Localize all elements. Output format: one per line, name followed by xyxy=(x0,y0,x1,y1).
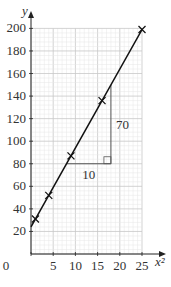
y-tick-label: 60 xyxy=(13,178,26,193)
x-axis-label: x² xyxy=(154,254,166,269)
chart: 051015202520406080100120140160180200yx² … xyxy=(0,0,171,287)
y-tick-label: 180 xyxy=(7,43,27,58)
y-axis-arrow-icon xyxy=(28,11,34,18)
y-tick-label: 160 xyxy=(7,66,27,81)
run-label: 10 xyxy=(82,167,95,182)
plot-area: 1070 xyxy=(31,26,146,227)
x-tick-label: 20 xyxy=(113,258,126,273)
y-tick-label: 80 xyxy=(13,156,26,171)
y-tick-label: 200 xyxy=(7,20,27,35)
y-tick-label: 120 xyxy=(7,111,27,126)
y-tick-label: 20 xyxy=(13,223,26,238)
grid xyxy=(31,28,142,254)
y-tick-label: 140 xyxy=(7,88,27,103)
y-tick-label: 40 xyxy=(13,201,26,216)
x-tick-label: 15 xyxy=(91,258,104,273)
x-tick-label: 5 xyxy=(50,258,57,273)
x-tick-label: 25 xyxy=(136,258,149,273)
y-axis-label: y xyxy=(20,3,28,18)
x-tick-label: 10 xyxy=(69,258,82,273)
rise-label: 70 xyxy=(116,117,129,132)
y-tick-label: 100 xyxy=(7,133,27,148)
right-angle-marker xyxy=(104,157,111,164)
x-tick-label: 0 xyxy=(3,258,10,273)
